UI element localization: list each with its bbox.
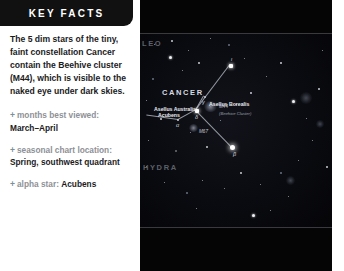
field-star: [210, 38, 211, 39]
field-star: [244, 58, 245, 59]
field-star: [288, 196, 289, 197]
field-star: [306, 118, 307, 119]
map-bottom-band: [140, 227, 332, 271]
field-star: [280, 172, 282, 174]
constellation-label-cancer: CANCER: [162, 88, 204, 97]
bullet-plus-icon: +: [10, 110, 15, 120]
field-star: [318, 88, 320, 90]
diffuse-object: [286, 176, 295, 185]
key-facts-title: KEY FACTS: [29, 8, 105, 19]
fact-value: Spring, southwest quadrant: [10, 157, 120, 167]
field-star: [224, 188, 225, 189]
field-star: [171, 40, 173, 42]
star-label-asellus-borealis: Asellus Borealis: [209, 101, 249, 107]
constellation-label-leo: LEO: [142, 39, 162, 48]
bullet-plus-icon: +: [10, 145, 15, 155]
field-star: [270, 210, 271, 211]
field-star: [175, 150, 177, 152]
star-map: CANCER LEO HYDRA Asellus Borealis Asellu…: [140, 0, 332, 271]
fact-label: alpha star:: [17, 179, 59, 189]
page-right-margin: [332, 0, 344, 271]
field-star: [206, 146, 208, 148]
constellation-label-hydra: HYDRA: [143, 163, 178, 172]
greek-label-gamma: γ: [202, 99, 205, 105]
key-facts-body: The 5 dim stars of the tiny, faint const…: [10, 33, 130, 199]
diffuse-object: [316, 120, 324, 128]
field-star: [240, 172, 242, 174]
m67-cluster-glyph: [189, 124, 198, 132]
key-facts-panel: KEY FACTS The 5 dim stars of the tiny, f…: [0, 0, 140, 271]
field-star: [260, 184, 261, 185]
field-star: [152, 78, 154, 80]
field-star: [326, 166, 328, 168]
field-star: [280, 62, 282, 64]
field-star: [252, 214, 255, 217]
greek-label-delta: δ: [195, 114, 198, 120]
fact-label: months best viewed:: [17, 110, 99, 120]
sky-background: [140, 33, 332, 227]
fact-label: seasonal chart location:: [17, 145, 112, 155]
greek-label-beta: β: [233, 151, 236, 157]
star-alpha: [177, 119, 179, 121]
star-gamma: [204, 96, 206, 98]
field-star: [188, 50, 189, 51]
fact-value: March–April: [10, 123, 58, 133]
field-star: [250, 92, 252, 94]
field-star: [312, 140, 313, 141]
field-star: [202, 180, 203, 181]
fact-alpha-star: +alpha star: Acubens: [10, 178, 130, 191]
fact-months-best-viewed: +months best viewed: March–April: [10, 109, 130, 134]
star-iota: [229, 64, 233, 68]
greek-label-alpha: α: [176, 122, 179, 128]
field-star: [169, 56, 172, 59]
star-label-acubens: Acubens: [158, 112, 180, 118]
field-star: [196, 208, 197, 209]
field-star: [182, 70, 183, 71]
fact-value: Acubens: [61, 179, 96, 189]
dso-sublabel-beehive-cluster: (Beehive Cluster): [219, 111, 251, 116]
field-star: [220, 120, 221, 121]
field-star: [228, 44, 230, 46]
field-star: [292, 100, 295, 103]
field-star: [146, 100, 147, 101]
greek-label-iota: ι: [231, 56, 232, 62]
field-star: [148, 140, 149, 141]
field-star: [164, 182, 165, 183]
diffuse-object: [300, 92, 312, 104]
field-star: [186, 192, 188, 194]
dso-label-m44: M44: [219, 104, 228, 109]
dso-label-m67: M67: [199, 129, 208, 134]
fact-seasonal-chart-location: +seasonal chart location: Spring, southw…: [10, 144, 130, 169]
star-beta: [230, 145, 235, 150]
field-star: [190, 132, 191, 133]
bullet-plus-icon: +: [10, 179, 15, 189]
field-star: [266, 76, 267, 77]
star-chart-page: CANCER LEO HYDRA Asellus Borealis Asellu…: [0, 0, 344, 271]
key-facts-lead-paragraph: The 5 dim stars of the tiny, faint const…: [10, 33, 130, 98]
field-star: [322, 50, 323, 51]
map-top-band: [140, 0, 332, 34]
field-star: [198, 62, 200, 64]
field-star: [160, 118, 162, 120]
field-star: [298, 160, 299, 161]
key-facts-header: KEY FACTS: [0, 0, 133, 26]
